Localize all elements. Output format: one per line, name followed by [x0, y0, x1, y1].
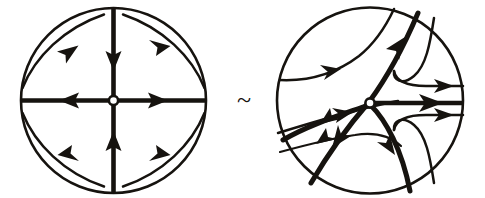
saddle-equilibrium-marker: [365, 98, 374, 107]
panel-linear-saddle: [0, 0, 228, 198]
panel-distorted-saddle: [258, 0, 485, 198]
orbit-arrow-upper-left-icon: [320, 65, 341, 80]
orbit-arrow-upper-left-icon: [57, 46, 79, 64]
orbit-arrow-lower-left-icon: [58, 145, 80, 161]
orbit-arrow-lower-right-icon: [149, 145, 171, 161]
unstable-manifold-oblique-upper: [369, 13, 418, 102]
saddle-equilibrium-marker: [109, 96, 118, 105]
orbit-loop-lower-exit: [394, 115, 463, 130]
figure-root: ~: [0, 0, 485, 198]
orbit-loop-upper-exit: [394, 71, 463, 86]
orbit-arrow-upper-right-icon: [149, 40, 171, 56]
